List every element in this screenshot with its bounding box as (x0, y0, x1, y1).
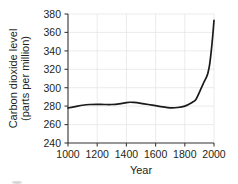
xtick-label-1000: 1000 (56, 148, 80, 160)
co2-line-chart: 380 360 340 320 300 280 260 240 1000 120… (0, 0, 238, 184)
chart-svg: 380 360 340 320 300 280 260 240 1000 120… (0, 0, 238, 184)
ytick-label-280: 280 (43, 100, 61, 112)
ytick-label-260: 260 (43, 118, 61, 130)
co2-data-line (68, 20, 214, 108)
ytick-label-360: 360 (43, 26, 61, 38)
corner-artifact (12, 181, 22, 184)
y-tick-labels: 380 360 340 320 300 280 260 240 (43, 8, 61, 149)
horizontal-gridlines (68, 14, 214, 143)
xtick-label-1400: 1400 (115, 148, 139, 160)
xtick-label-2000: 2000 (202, 148, 226, 160)
xtick-label-1600: 1600 (144, 148, 168, 160)
xtick-label-1800: 1800 (173, 148, 197, 160)
ytick-label-340: 340 (43, 45, 61, 57)
y-axis-title-line1: Carbon dioxide level (7, 29, 19, 129)
ytick-label-380: 380 (43, 8, 61, 20)
x-tick-labels: 1000 1200 1400 1600 1800 2000 (56, 148, 226, 160)
xtick-label-1200: 1200 (86, 148, 110, 160)
y-axis-title-line2: (parts per million) (19, 36, 31, 121)
ytick-label-300: 300 (43, 82, 61, 94)
axis-frame (68, 14, 214, 143)
ytick-label-320: 320 (43, 63, 61, 75)
vertical-gridlines (68, 14, 214, 143)
x-axis-title: Year (130, 164, 153, 176)
